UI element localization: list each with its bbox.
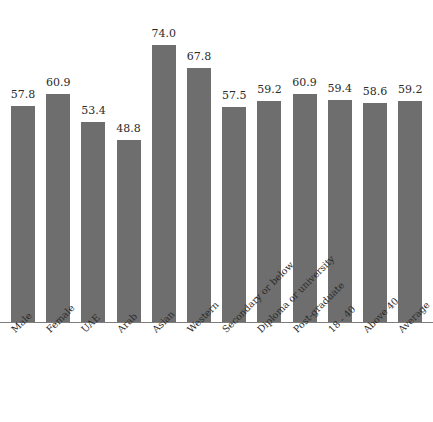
bar-group: 74.0 <box>141 0 176 323</box>
bar-group: 59.2 <box>387 0 422 323</box>
x-axis-tick-labels: MaleFemaleUAEArabAsianWesternSecondary o… <box>0 323 433 422</box>
bar-group: 67.8 <box>176 0 211 323</box>
bar <box>363 103 387 323</box>
bar <box>117 140 141 323</box>
bar <box>187 68 211 323</box>
bar <box>46 94 70 323</box>
bar <box>152 45 176 323</box>
bar-group: 58.6 <box>352 0 387 323</box>
plot-area: 57.860.953.448.874.067.857.559.260.959.4… <box>0 0 433 323</box>
bar <box>222 107 246 323</box>
bar <box>398 101 422 323</box>
bar-group: 57.5 <box>211 0 246 323</box>
bar-chart: 57.860.953.448.874.067.857.559.260.959.4… <box>0 0 433 422</box>
bar-value-label: 59.2 <box>387 83 433 96</box>
bar <box>11 106 35 323</box>
bar-group: 53.4 <box>70 0 105 323</box>
bar-group: 48.8 <box>106 0 141 323</box>
bar <box>81 122 105 323</box>
bar-group: 60.9 <box>35 0 70 323</box>
bar-group: 57.8 <box>0 0 35 323</box>
